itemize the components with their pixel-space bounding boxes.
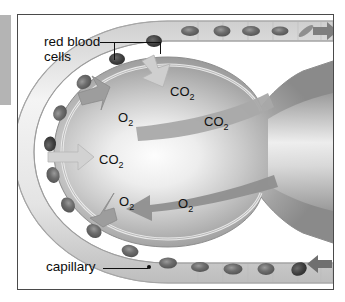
- leader-rbc-horizontal: [113, 42, 161, 43]
- gas-label-co2-top: CO2: [170, 85, 195, 102]
- diagram-frame: CO2 O2 CO2 CO2 O2 O2 red blood cells cap…: [17, 14, 334, 290]
- leader-rbc-drop-left: [114, 42, 115, 60]
- callout-red-blood-cells: red blood cells: [44, 35, 100, 64]
- leader-capillary-dot: [147, 265, 151, 269]
- gas-label-o2-upper: O2: [118, 111, 133, 128]
- leader-rbc-drop-right: [160, 42, 161, 54]
- callout-rbc-line2: cells: [44, 50, 100, 65]
- callout-rbc-line1: red blood: [44, 35, 100, 50]
- gas-label-o2-lower: O2: [119, 195, 134, 212]
- callout-capillary: capillary: [46, 260, 96, 275]
- leader-rbc-stub: [100, 42, 114, 43]
- leader-capillary: [103, 268, 148, 269]
- gas-label-co2-left: CO2: [99, 153, 124, 170]
- gas-label-o2-airflow: O2: [178, 197, 193, 214]
- red-blood-cell-labeled-left: [109, 53, 125, 65]
- left-edge-gray-bar: [0, 15, 11, 105]
- figure-canvas: CO2 O2 CO2 CO2 O2 O2 red blood cells cap…: [0, 0, 345, 302]
- gas-label-co2-right: CO2: [204, 115, 229, 132]
